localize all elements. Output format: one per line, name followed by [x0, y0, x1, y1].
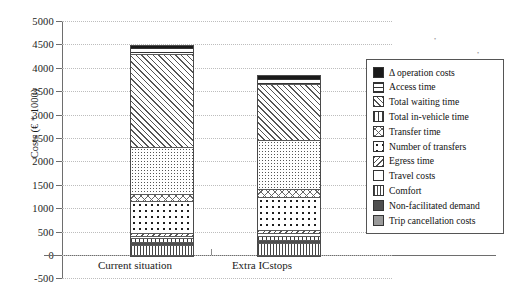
legend-swatch-icon: [373, 200, 384, 211]
legend-item-egress-time[interactable]: Egress time: [373, 154, 498, 169]
legend-swatch-icon: [373, 141, 384, 152]
bar-segment-travel-costs: [258, 234, 320, 236]
legend-swatch-icon: [373, 96, 384, 107]
bar-segment-total-waiting-time: [131, 55, 193, 149]
legend-label: Total in-vehicle time: [389, 112, 469, 122]
legend-box: Δ operation costsAccess timeTotal waitin…: [366, 59, 504, 234]
legend-label: Transfer time: [389, 127, 441, 137]
bar-segment-access-time: [258, 79, 320, 86]
legend-item-total-waiting-time[interactable]: Total waiting time: [373, 95, 498, 110]
bar-segment-non-facilitated-demand: [131, 243, 193, 246]
bar-segment-travel-costs: [131, 237, 193, 239]
y-axis-title: Costs (€ * 1000): [29, 44, 40, 204]
legend-item-comfort[interactable]: Comfort: [373, 183, 498, 198]
gridline: [62, 68, 392, 69]
bar-segment-total-in-vehicle-time: [131, 148, 193, 195]
bar-segment-egress-time: [131, 234, 193, 237]
bar-segment-egress-time: [258, 231, 320, 234]
legend-label: Number of transfers: [389, 142, 466, 152]
bar-segment-total-in-vehicle-time: [258, 141, 320, 190]
bar-extra-icstops[interactable]: [257, 75, 321, 257]
scan-speck: •: [477, 50, 479, 56]
gridline: [62, 21, 392, 22]
bar-segment-number-of-transfers: [131, 202, 193, 233]
y-axis-tick-label: 1000: [10, 203, 54, 214]
legend-item-travel-costs[interactable]: Travel costs: [373, 169, 498, 184]
legend-swatch-icon: [373, 215, 384, 226]
gridline: [62, 232, 392, 233]
bar-segment-non-facilitated-demand: [258, 241, 320, 244]
legend-swatch-icon: [373, 126, 384, 137]
legend-label: Egress time: [389, 156, 434, 166]
x-axis-minor-tick: [211, 249, 212, 255]
legend-item-operation-costs[interactable]: Δ operation costs: [373, 65, 498, 80]
legend-swatch-icon: [373, 170, 384, 181]
x-axis-label-extra-icstops: Extra ICstops: [187, 259, 337, 271]
legend-item-total-in-vehicle-time[interactable]: Total in-vehicle time: [373, 109, 498, 124]
legend-item-access-time[interactable]: Access time: [373, 80, 498, 95]
y-axis-tick-label: -500: [10, 273, 54, 284]
legend-label: Trip cancellation costs: [389, 216, 476, 226]
y-axis-tick-label: 500: [10, 226, 54, 237]
bar-segment-comfort: [131, 239, 193, 243]
scan-speck: •: [434, 36, 436, 42]
chart-figure: 5000450040003500300025002000150010005000…: [0, 0, 512, 306]
legend-swatch-icon: [373, 185, 384, 196]
gridline: [62, 255, 392, 256]
legend-label: Δ operation costs: [389, 68, 455, 78]
bar-current-situation[interactable]: [130, 45, 194, 257]
bar-segment-access-time: [131, 48, 193, 54]
gridline: [62, 91, 392, 92]
legend-label: Non-facilitated demand: [389, 201, 480, 211]
bar-segment-comfort: [258, 237, 320, 242]
legend-swatch-icon: [373, 156, 384, 167]
plot-area: [62, 21, 392, 279]
bar-segment-trip-cancellation-costs: [258, 244, 320, 256]
gridline: [62, 185, 392, 186]
legend-swatch-icon: [373, 82, 384, 93]
legend-label: Access time: [389, 82, 436, 92]
gridline: [62, 115, 392, 116]
gridline: [62, 208, 392, 209]
gridline: [62, 44, 392, 45]
gridline: [62, 161, 392, 162]
bar-segment-trip-cancellation-costs: [131, 246, 193, 256]
legend-item-number-of-transfers[interactable]: Number of transfers: [373, 139, 498, 154]
legend-item-trip-cancellation-costs[interactable]: Trip cancellation costs: [373, 213, 498, 228]
bar-segment-operation-costs: [258, 76, 320, 78]
bar-segment-transfer-time: [131, 195, 193, 202]
legend-label: Comfort: [389, 186, 422, 196]
bar-segment-total-waiting-time: [258, 85, 320, 141]
legend-item-transfer-time[interactable]: Transfer time: [373, 124, 498, 139]
legend-item-non-facilitated-demand[interactable]: Non-facilitated demand: [373, 198, 498, 213]
legend-label: Total waiting time: [389, 97, 459, 107]
gridline: [62, 138, 392, 139]
legend-swatch-icon: [373, 111, 384, 122]
legend-swatch-icon: [373, 67, 384, 78]
y-axis-tick-label: 5000: [10, 16, 54, 27]
bar-segment-operation-costs: [131, 46, 193, 48]
legend-label: Travel costs: [389, 171, 435, 181]
gridline: [62, 278, 392, 279]
bar-segment-number-of-transfers: [258, 198, 320, 231]
bar-segment-transfer-time: [258, 190, 320, 198]
